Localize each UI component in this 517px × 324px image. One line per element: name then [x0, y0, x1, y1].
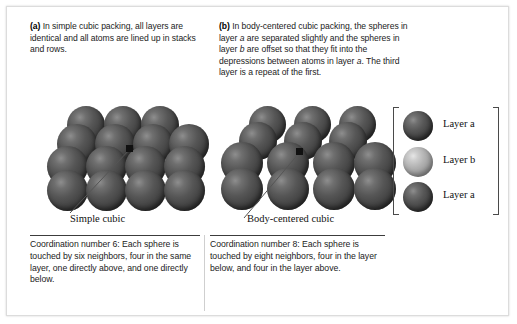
coordination-caption-a: Coordination number 6: Each sphere is to…: [30, 239, 210, 286]
panel-b-description: (b) In body-centered cubic packing, the …: [219, 21, 412, 79]
divider-rule-b: [210, 235, 385, 236]
legend-sphere-dark: [403, 182, 433, 212]
panel-a-description: (a) In simple cubic packing, all layers …: [30, 21, 205, 56]
legend-bracket-right: [493, 107, 499, 215]
leader-line-simple-cubic: [62, 137, 172, 217]
legend-item-layer-b: Layer b: [401, 146, 493, 179]
legend-label: Layer a: [443, 189, 475, 200]
legend-label: Layer a: [443, 118, 475, 129]
structure-label-simple-cubic: Simple cubic: [70, 213, 125, 224]
divider-rule-a: [30, 235, 200, 236]
panel-divider: [204, 235, 205, 311]
legend-label: Layer b: [443, 154, 475, 165]
legend: Layer a Layer b Layer a: [393, 107, 501, 215]
legend-sphere-light: [403, 147, 433, 177]
figure-frame: (a) In simple cubic packing, all layers …: [6, 6, 509, 316]
panel-a-description-text: In simple cubic packing, all layers are …: [30, 21, 196, 54]
panel-simple-cubic: (a) In simple cubic packing, all layers …: [7, 7, 207, 317]
leader-line-body-centered-cubic: [238, 142, 348, 222]
legend-item-layer-a-bottom: Layer a: [401, 181, 493, 214]
panel-body-centered-cubic: (b) In body-centered cubic packing, the …: [205, 7, 403, 317]
structure-label-body-centered-cubic: Body-centered cubic: [247, 213, 334, 224]
coordination-caption-b: Coordination number 8: Each sphere is to…: [210, 239, 390, 274]
panel-a-marker: (a): [30, 21, 40, 31]
legend-bracket-left: [393, 107, 399, 215]
sphere: [354, 168, 396, 210]
panel-b-marker: (b): [219, 21, 230, 31]
legend-item-layer-a-top: Layer a: [401, 110, 493, 143]
legend-sphere-dark: [403, 111, 433, 141]
